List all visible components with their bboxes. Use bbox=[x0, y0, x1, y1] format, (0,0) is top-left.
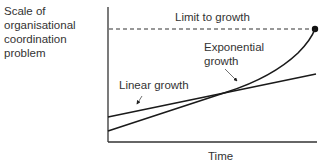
exponential-pointer-arrow bbox=[225, 69, 237, 81]
linear-label: Linear growth bbox=[119, 79, 189, 91]
exponential-label-line-2: growth bbox=[204, 55, 239, 67]
exponential-label-line-1: Exponential bbox=[204, 41, 264, 53]
growth-diagram: Limit to growth Exponential growth Linea… bbox=[0, 0, 326, 164]
linear-pointer-arrow bbox=[137, 96, 142, 104]
x-axis-label: Time bbox=[208, 150, 233, 162]
limit-label: Limit to growth bbox=[175, 11, 250, 23]
